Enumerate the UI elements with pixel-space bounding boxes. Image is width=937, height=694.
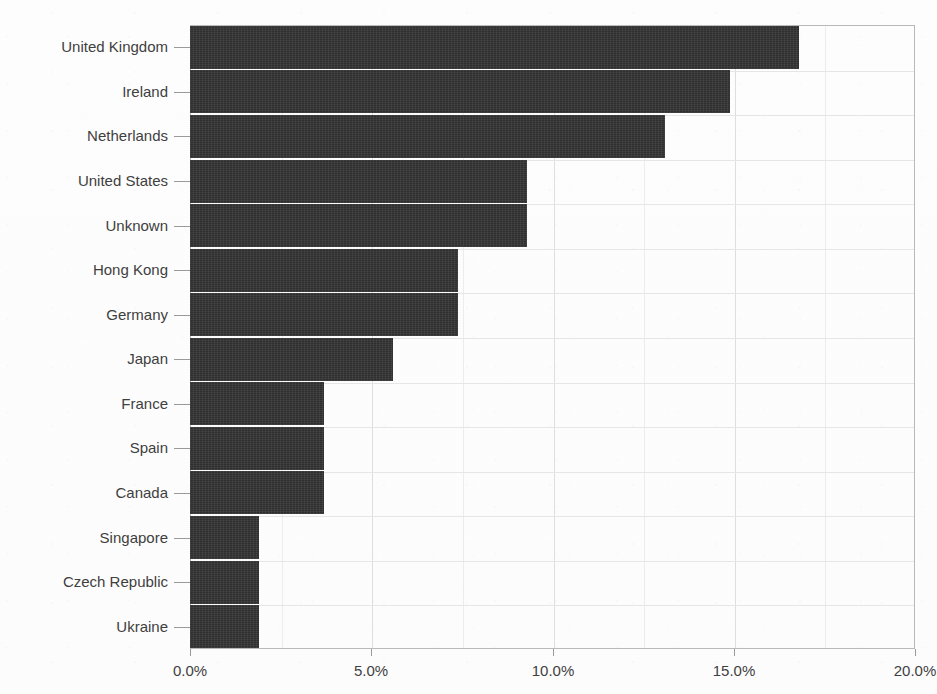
y-axis-tick [174,181,190,182]
y-axis-tick [174,359,190,360]
y-axis-tick [174,270,190,271]
y-axis-tick [174,538,190,539]
x-axis-label-200: 20.0% [875,663,937,678]
y-axis-tick [174,226,190,227]
y-axis-tick [174,47,190,48]
y-axis-label-japan: Japan [127,351,168,366]
y-axis-label-spain: Spain [130,440,168,455]
y-axis-label-netherlands: Netherlands [87,128,168,143]
x-axis-label-50: 5.0% [331,663,411,678]
y-axis-tick [174,92,190,93]
x-axis-tick [190,649,191,656]
bar-united-states [190,160,527,203]
y-axis-label-germany: Germany [106,307,168,322]
y-axis-label-united-states: United States [78,173,168,188]
y-axis-label-ukraine: Ukraine [116,619,168,634]
x-axis-label-100: 10.0% [513,663,593,678]
bar-japan [190,338,393,381]
y-axis-label-czech-republic: Czech Republic [63,574,168,589]
y-axis-tick [174,315,190,316]
y-axis-label-hong-kong: Hong Kong [93,262,168,277]
bar-singapore [190,516,259,559]
x-axis-label-00: 0.0% [150,663,230,678]
y-axis-label-unknown: Unknown [105,218,168,233]
y-axis-label-ireland: Ireland [122,84,168,99]
y-axis-label-singapore: Singapore [100,530,168,545]
y-axis-tick [174,448,190,449]
bar-france [190,382,324,425]
y-axis-tick [174,582,190,583]
gridline-vertical-minor [825,26,826,648]
bar-czech-republic [190,561,259,604]
gridline-horizontal [191,516,914,517]
x-axis-tick [371,649,372,656]
y-axis-tick [174,404,190,405]
y-axis-label-united-kingdom: United Kingdom [61,39,168,54]
x-axis-tick [734,649,735,656]
bar-ireland [190,70,730,113]
bar-germany [190,293,458,336]
bar-ukraine [190,605,259,648]
bar-canada [190,471,324,514]
y-axis-label-canada: Canada [115,485,168,500]
gridline-horizontal [191,605,914,606]
bar-spain [190,427,324,470]
bar-unknown [190,204,527,247]
horizontal-bar-chart: United KingdomIrelandNetherlandsUnited S… [0,0,937,694]
y-axis-tick [174,493,190,494]
y-axis-label-france: France [121,396,168,411]
y-axis-tick [174,627,190,628]
bar-netherlands [190,115,665,158]
bar-united-kingdom [190,26,799,69]
x-axis-tick [553,649,554,656]
x-axis-label-150: 15.0% [694,663,774,678]
bar-hong-kong [190,249,458,292]
y-axis-tick [174,136,190,137]
x-axis-tick [915,649,916,656]
gridline-vertical-major [735,26,736,648]
gridline-horizontal [191,561,914,562]
